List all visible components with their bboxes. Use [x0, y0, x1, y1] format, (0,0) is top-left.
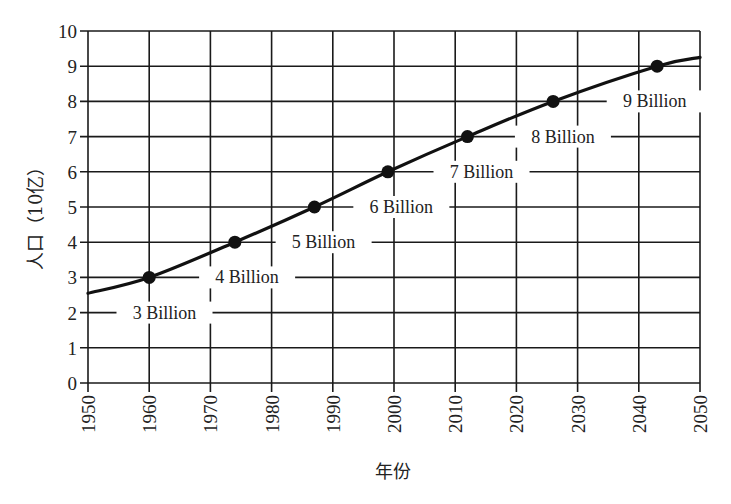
x-tick-label: 1990 — [323, 395, 344, 433]
y-tick-label: 6 — [68, 162, 78, 183]
milestone-point — [651, 60, 664, 73]
milestone-label: 5 Billion — [292, 232, 356, 252]
x-tick-label: 1970 — [200, 395, 221, 433]
milestone-label: 3 Billion — [133, 303, 197, 323]
x-tick-labels: 1950196019701980199020002010202020302040… — [78, 395, 711, 433]
y-tick-label: 5 — [68, 197, 78, 218]
y-tick-label: 0 — [68, 373, 78, 394]
x-tick-label: 2010 — [445, 395, 466, 433]
milestone-label: 4 Billion — [215, 267, 279, 287]
milestone-label: 6 Billion — [370, 197, 434, 217]
milestone-label: 9 Billion — [623, 91, 687, 111]
y-tick-label: 9 — [68, 56, 78, 77]
x-tick-label: 1960 — [139, 395, 160, 433]
y-axis-title: 人口（10亿） — [25, 158, 46, 271]
x-axis-title: 年份 — [375, 461, 411, 482]
y-tick-label: 10 — [58, 21, 77, 42]
x-tick-label: 2030 — [568, 395, 589, 433]
population-chart: 3 Billion4 Billion5 Billion6 Billion7 Bi… — [0, 0, 731, 504]
milestone-point — [228, 236, 241, 249]
x-tick-label: 2050 — [690, 395, 711, 433]
y-tick-label: 2 — [68, 303, 78, 324]
milestone-point — [308, 201, 321, 214]
x-tick-label: 1950 — [78, 395, 99, 433]
milestone-point — [381, 165, 394, 178]
y-tick-label: 7 — [68, 127, 78, 148]
milestone-label: 8 Billion — [531, 127, 595, 147]
y-tick-label: 3 — [68, 267, 78, 288]
y-tick-label: 4 — [68, 232, 78, 253]
y-tick-label: 1 — [68, 338, 78, 359]
x-tick-label: 2040 — [629, 395, 650, 433]
x-tick-label: 2020 — [506, 395, 527, 433]
y-tick-labels: 012345678910 — [58, 21, 78, 394]
y-tick-label: 8 — [68, 91, 78, 112]
x-tick-label: 2000 — [384, 395, 405, 433]
milestone-point — [143, 271, 156, 284]
milestone-label: 7 Billion — [450, 162, 514, 182]
milestone-point — [547, 95, 560, 108]
x-tick-label: 1980 — [262, 395, 283, 433]
milestone-point — [461, 130, 474, 143]
